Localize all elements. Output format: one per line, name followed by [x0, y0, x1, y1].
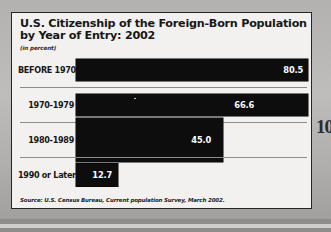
bar-before-1970: 80.5 [76, 59, 308, 81]
bar-value-label: 66.6 [234, 100, 254, 110]
bar-category-label: 1980-1989 [18, 135, 74, 145]
source-note: Source: U.S. Census Bureau, Current popu… [20, 197, 225, 203]
bar-row: 1990 or Later 12.7 [12, 157, 313, 192]
bar-value-label: 12.7 [92, 170, 112, 180]
bar-row: BEFORE 1970 80.5 [12, 52, 313, 87]
chart-subtitle: (in percent) [20, 45, 305, 51]
scan-speck [134, 98, 136, 100]
page-edge-highlight [0, 224, 331, 228]
row-divider [20, 157, 307, 158]
bar-1990-or-later: 12.7 [76, 163, 118, 186]
bar-category-label: 1970-1979 [18, 100, 74, 110]
bar-row: 1980-1989 45.0 [12, 122, 313, 157]
bar-value-label: 45.0 [191, 135, 211, 145]
chart-title-block: U.S. Citizenship of the Foreign-Born Pop… [20, 18, 305, 51]
bar-category-label: 1990 or Later [18, 170, 74, 180]
adjacent-column-partial-digit: 10 [316, 117, 331, 136]
bar-category-label: BEFORE 1970 [18, 65, 74, 75]
chart-figure: U.S. Citizenship of the Foreign-Born Pop… [11, 12, 312, 209]
bar-chart-plot-area: BEFORE 1970 80.5 1970-1979 66.6 1980-198… [12, 52, 313, 193]
bar-1980-1989: 45.0 [76, 118, 223, 162]
bar-1970-1979: 66.6 [76, 94, 308, 116]
bar-value-label: 80.5 [283, 65, 303, 75]
row-divider [20, 87, 307, 88]
page-title-line2: by Year of Entry: 2002 [20, 30, 305, 42]
